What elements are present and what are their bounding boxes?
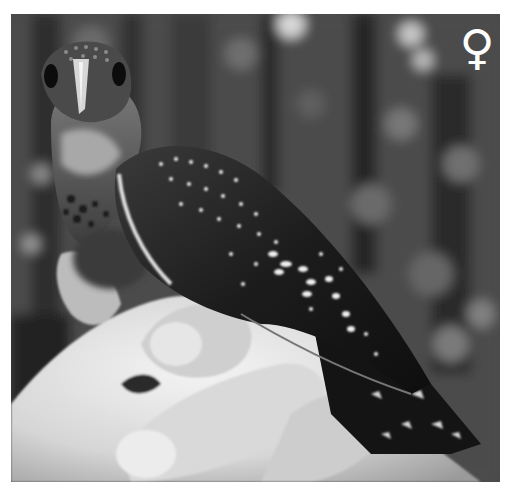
female-symbol-icon: ♀: [455, 18, 499, 76]
photo-illustration: [11, 14, 500, 482]
bird-photo: ♀: [11, 14, 500, 482]
